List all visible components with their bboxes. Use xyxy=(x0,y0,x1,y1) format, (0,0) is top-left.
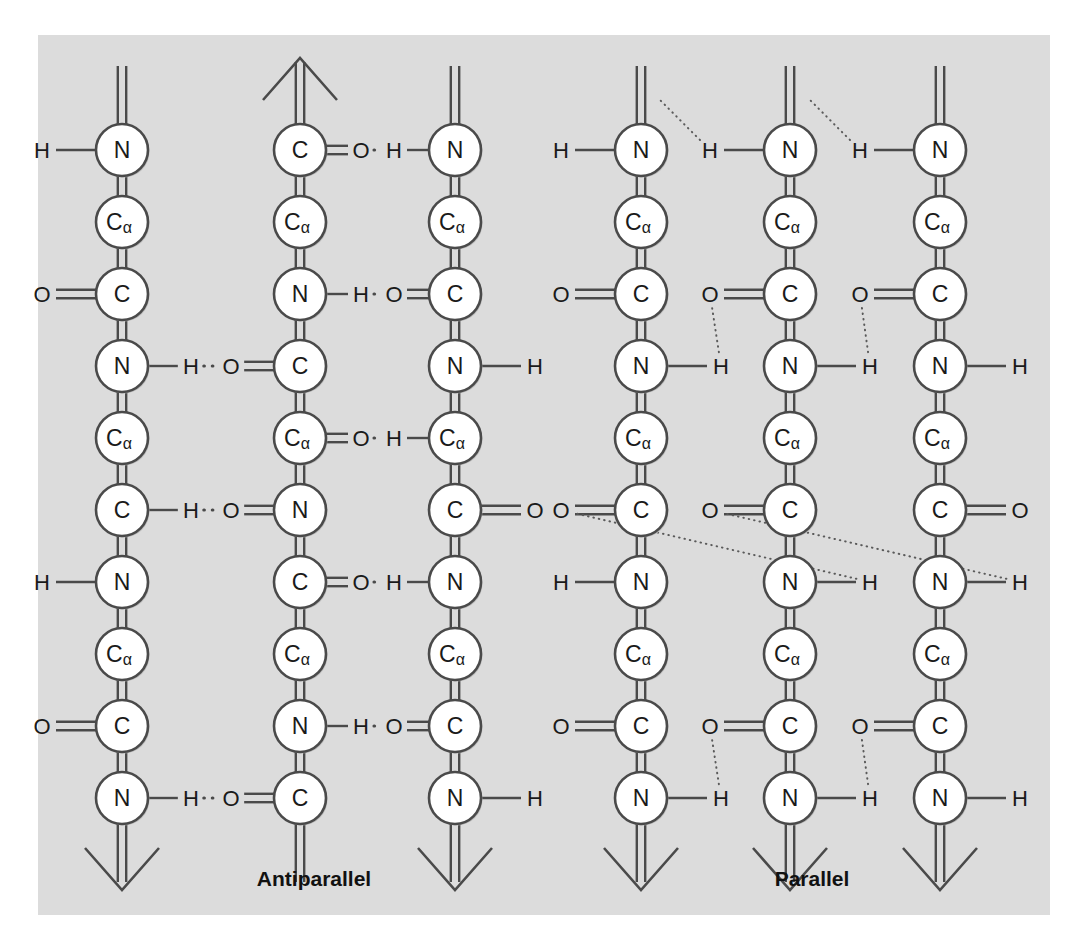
chain-backbone xyxy=(418,66,492,890)
atom-node-label: N xyxy=(782,137,799,163)
atom-node-ca: Cα xyxy=(429,412,483,466)
atom-node-ca: Cα xyxy=(96,628,150,682)
atom-node-label: N xyxy=(633,137,650,163)
atom-node-label: C xyxy=(782,713,799,739)
atom-node-label: N xyxy=(932,137,949,163)
hydrogen-bond-parallel: H xyxy=(658,98,764,163)
hbond-dots-diagonal xyxy=(712,740,719,784)
atom-label-h: H xyxy=(183,786,199,811)
atom-node-label: C xyxy=(292,353,309,379)
atom-node-c: C xyxy=(615,700,669,754)
atom-node-ca: Cα xyxy=(615,412,669,466)
atom-node-c: C xyxy=(274,340,328,394)
atom-label-o: O xyxy=(385,714,402,739)
atom-label-o: O xyxy=(223,498,240,523)
atom-node-ca: Cα xyxy=(274,628,328,682)
atom-node-label: C xyxy=(292,785,309,811)
atom-node-n: N xyxy=(96,772,150,826)
atom-node-n: N xyxy=(274,484,328,538)
atom-node-label: C xyxy=(932,281,949,307)
atom-node-n: N xyxy=(615,556,669,610)
atom-label-o: O xyxy=(385,282,402,307)
atom-node-label: N xyxy=(782,569,799,595)
atom-node-c: C xyxy=(429,700,483,754)
atom-node-label: N xyxy=(633,785,650,811)
atom-node-ca: Cα xyxy=(429,196,483,250)
atom-node-label: N xyxy=(782,353,799,379)
chain-backbone xyxy=(85,66,159,890)
atom-label-h: H xyxy=(527,786,543,811)
atom-node-label: N xyxy=(114,569,131,595)
hydrogen-bond-parallel: OH xyxy=(667,714,764,811)
figure-root: OHHOHOOHOHHOHOHOHHOHOHOHOHOHOH HOHOHOHHO… xyxy=(0,0,1079,950)
hydrogen-bond-antiparallel: OH xyxy=(326,138,429,163)
atom-node-n: N xyxy=(914,556,968,610)
atom-label-h: H xyxy=(553,138,569,163)
atom-node-n: N xyxy=(764,340,818,394)
atom-node-n: N xyxy=(429,340,483,394)
atom-node-label: N xyxy=(114,353,131,379)
atom-label-h: H xyxy=(862,786,878,811)
atom-node-c: C xyxy=(274,772,328,826)
atom-node-c: C xyxy=(96,700,150,754)
atom-label-h: H xyxy=(862,570,878,595)
atom-node-label: N xyxy=(932,353,949,379)
atom-label-o: O xyxy=(701,498,718,523)
atom-node-n: N xyxy=(764,556,818,610)
atom-node-c: C xyxy=(914,268,968,322)
atom-node-c: C xyxy=(96,268,150,322)
atom-node-c: C xyxy=(96,484,150,538)
atom-nodes-layer: NCαCNCαCNCαCNCCαNCCαNCCαNCNCαCNCαCNCαCNN… xyxy=(96,124,968,826)
atom-label-o: O xyxy=(352,570,369,595)
atom-node-label: C xyxy=(292,569,309,595)
hydrogen-bond-parallel: OH xyxy=(667,282,764,379)
beta-sheet-diagram: OHHOHOOHOHHOHOHOHHOHOHOHOHOHOH HOHOHOHHO… xyxy=(0,0,1079,950)
hydrogen-bond-antiparallel: HO xyxy=(148,786,274,811)
hbond-dots-diagonal xyxy=(862,308,868,352)
atom-node-c: C xyxy=(764,484,818,538)
atom-node-n: N xyxy=(96,556,150,610)
chain-backbone xyxy=(753,66,827,890)
hydrogen-bond-antiparallel: OH xyxy=(326,426,429,451)
atom-node-n: N xyxy=(615,340,669,394)
atom-node-n: N xyxy=(914,772,968,826)
atom-node-label: N xyxy=(932,569,949,595)
atom-node-label: N xyxy=(633,569,650,595)
atom-node-ca: Cα xyxy=(274,412,328,466)
atom-node-c: C xyxy=(914,484,968,538)
atom-label-h: H xyxy=(1012,570,1028,595)
atom-label-o: O xyxy=(1011,498,1028,523)
atom-label-o: O xyxy=(526,498,543,523)
atom-node-n: N xyxy=(914,340,968,394)
atom-node-label: C xyxy=(114,281,131,307)
section-labels-layer: AntiparallelParallel xyxy=(257,867,850,890)
atom-node-ca: Cα xyxy=(764,412,818,466)
atom-label-h: H xyxy=(713,354,729,379)
section-label-antiparallel: Antiparallel xyxy=(257,867,371,890)
atom-node-n: N xyxy=(429,124,483,178)
atom-node-label: C xyxy=(292,137,309,163)
atom-label-o: O xyxy=(552,498,569,523)
atom-node-n: N xyxy=(615,772,669,826)
atom-node-c: C xyxy=(615,484,669,538)
atom-label-o: O xyxy=(33,282,50,307)
atom-label-h: H xyxy=(852,138,868,163)
atom-node-label: C xyxy=(782,497,799,523)
atom-label-h: H xyxy=(386,426,402,451)
atom-node-label: N xyxy=(292,281,309,307)
atom-label-o: O xyxy=(701,714,718,739)
atom-label-h: H xyxy=(183,354,199,379)
atom-node-label: N xyxy=(114,785,131,811)
atom-label-h: H xyxy=(353,714,369,739)
atom-node-label: C xyxy=(633,281,650,307)
atom-label-h: H xyxy=(713,786,729,811)
atom-node-c: C xyxy=(764,268,818,322)
hydrogen-bond-parallel: OH xyxy=(816,282,914,379)
atom-node-label: N xyxy=(447,137,464,163)
atom-node-n: N xyxy=(615,124,669,178)
backbone-bonds-layer xyxy=(85,58,977,890)
atom-label-h: H xyxy=(386,138,402,163)
atom-node-ca: Cα xyxy=(615,628,669,682)
atom-node-c: C xyxy=(274,124,328,178)
chain-direction-arrow-down xyxy=(604,848,678,890)
